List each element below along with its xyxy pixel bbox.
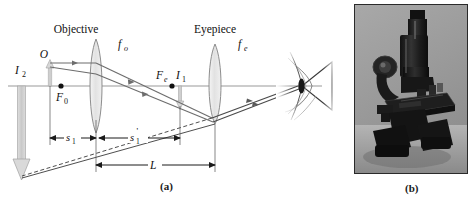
focal-point-objective-symbol: F — [55, 91, 64, 103]
microscope-photo — [355, 5, 467, 173]
virtual-image-construction-lines — [22, 118, 215, 178]
objective-label: Objective — [54, 23, 99, 36]
focal-length-eyepiece-subscript: e — [244, 44, 248, 53]
focal-point-eyepiece-dot — [169, 83, 174, 88]
tube-length-label: L — [148, 156, 162, 171]
distance-s1-label: s 1 — [64, 130, 81, 146]
image-one-label: I 1 — [175, 69, 186, 84]
microscope-figure: Objective Eyepiece f o f e O F 0 F — [0, 0, 475, 205]
photo-frame — [354, 4, 468, 174]
distance-s1-prime-label: s 1 ' — [128, 126, 148, 146]
distance-s1-subscript: 1 — [72, 137, 76, 146]
microscope-photo-panel: (b) — [352, 2, 472, 205]
distance-s1-prime-symbol: s — [130, 132, 134, 143]
image-two-arrow — [13, 86, 30, 180]
eye-sketch — [276, 40, 342, 132]
distance-s1-symbol: s — [66, 132, 70, 143]
image-two-label: I 2 — [14, 64, 26, 79]
ray-chief — [50, 67, 213, 122]
image-one-subscript: 1 — [182, 75, 186, 84]
focal-point-eyepiece-symbol: F — [155, 69, 164, 81]
object-label: O — [40, 48, 49, 60]
focal-length-objective-symbol: f — [118, 38, 123, 51]
focal-length-objective-label: f o — [118, 38, 128, 53]
ray-diagram-svg: Objective Eyepiece f o f e O F 0 F — [0, 0, 345, 205]
distance-s1-prime-subscript: 1 — [136, 137, 140, 146]
focal-length-objective-subscript: o — [124, 44, 128, 53]
focal-point-eyepiece-subscript: e — [164, 75, 168, 84]
focal-length-eyepiece-symbol: f — [238, 38, 243, 51]
tube-length-symbol: L — [149, 159, 156, 171]
focal-point-objective-dot — [58, 83, 63, 88]
focal-point-objective-label: F 0 — [55, 91, 68, 106]
focal-length-eyepiece-label: f e — [238, 38, 248, 53]
image-one-symbol: I — [175, 69, 181, 81]
image-two-subscript: 2 — [22, 70, 26, 79]
objective-lens — [90, 39, 102, 133]
panel-a-caption: (a) — [160, 180, 173, 192]
ray-diagram-panel: Objective Eyepiece f o f e O F 0 F — [0, 0, 345, 205]
eyepiece-label: Eyepiece — [194, 23, 236, 36]
eyepiece-lens — [209, 44, 221, 124]
focal-point-eyepiece-label: F e — [155, 69, 168, 84]
focal-point-objective-subscript: 0 — [64, 97, 68, 106]
image-one-arrow — [176, 86, 184, 110]
panel-b-caption: (b) — [405, 182, 418, 194]
image-two-symbol: I — [14, 64, 20, 76]
